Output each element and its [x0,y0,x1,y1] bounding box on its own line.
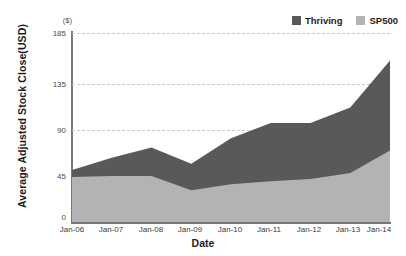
x-tick-label-jan-08: Jan-08 [129,225,173,234]
x-tick-label-jan-07: Jan-07 [89,225,133,234]
x-axis-title: Date [0,237,406,249]
legend-label-sp500: SP500 [369,15,398,26]
x-tick-label-jan-12: Jan-12 [287,225,331,234]
y-tick-label-45: 45 [36,172,66,181]
legend-label-thriving: Thriving [305,15,342,26]
legend-item-sp500[interactable]: SP500 [356,15,398,26]
y-tick-label-90: 90 [36,126,66,135]
y-tick-label-135: 135 [36,80,66,89]
chart-legend: Thriving SP500 [292,15,398,26]
y-tick-label-185: 185 [36,29,66,38]
legend-item-thriving[interactable]: Thriving [292,15,342,26]
plot-area [72,33,390,222]
y-axis-title: Average Adjusted Stock Close(USD) [16,16,28,216]
x-tick-label-jan-06: Jan-06 [50,225,94,234]
legend-swatch-icon-thriving [292,16,301,25]
x-axis-line [71,222,391,224]
x-tick-label-jan-11: Jan-11 [247,225,291,234]
y-axis-unit-label: ($) [44,16,72,25]
x-tick-label-jan-14: Jan-14 [357,225,401,234]
x-tick-label-jan-09: Jan-09 [168,225,212,234]
y-tick-label-0: 0 [36,213,66,222]
legend-swatch-icon-sp500 [356,16,365,25]
stacked-area-series [72,33,390,222]
chart-container: Average Adjusted Stock Close(USD) ($) 18… [0,0,406,256]
x-tick-label-jan-10: Jan-10 [208,225,252,234]
